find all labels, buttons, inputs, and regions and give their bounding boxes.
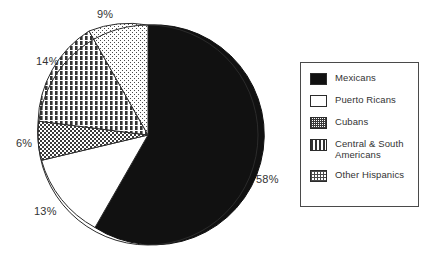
pie-slices <box>38 23 265 245</box>
legend-item-other-hispanics: Other Hispanics <box>310 169 411 182</box>
pie-label-other-hispanics: 9% <box>97 8 113 20</box>
sparse-dots-swatch <box>310 170 327 182</box>
chart-legend: Mexicans Puerto Ricans Cubans Central & … <box>300 62 419 207</box>
pie-label-mexicans: 58% <box>256 173 279 185</box>
solid-white-swatch <box>310 95 327 107</box>
pie-chart-figure: 9% 14% 6% 13% 58% Mexicans Puerto Ricans… <box>0 0 430 254</box>
pie-chart-area: 9% 14% 6% 13% 58% <box>0 0 300 254</box>
legend-item-label: Other Hispanics <box>335 169 404 180</box>
legend-item-central-south-americans: Central & South Americans <box>310 138 411 160</box>
legend-item-puerto-ricans: Puerto Ricans <box>310 94 411 107</box>
solid-black-swatch <box>310 73 327 85</box>
legend-item-label: Central & South Americans <box>335 138 404 160</box>
legend-item-label: Mexicans <box>335 72 376 83</box>
pie-label-central-south-americans: 14% <box>36 55 59 67</box>
pie-label-puerto-ricans: 13% <box>34 205 57 217</box>
legend-item-label: Puerto Ricans <box>335 94 396 105</box>
legend-item-cubans: Cubans <box>310 116 411 129</box>
legend-item-mexicans: Mexicans <box>310 72 411 85</box>
vertical-grid-swatch <box>310 139 327 151</box>
legend-item-label: Cubans <box>335 116 368 127</box>
pie-label-cubans: 6% <box>16 137 32 149</box>
checkerboard-swatch <box>310 117 327 129</box>
